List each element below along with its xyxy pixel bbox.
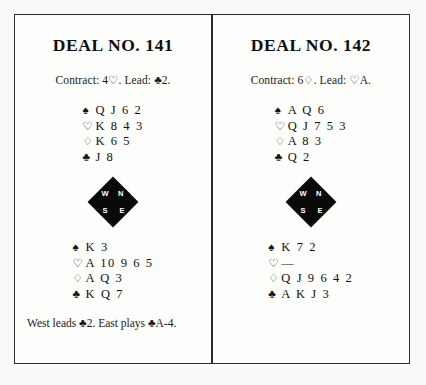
heart-icon: ♡ (275, 119, 288, 135)
south-spades-row-141: ♠ K 3 (73, 240, 154, 256)
north-clubs-141: J 8 (95, 150, 114, 166)
heart-icon: ♡ (82, 119, 95, 135)
diamond-icon: ♢ (275, 134, 288, 150)
south-clubs-row-141: ♣ K Q 7 (73, 287, 154, 303)
club-icon: ♣ (268, 287, 281, 303)
north-clubs-row-142: ♣ Q 2 (275, 150, 348, 166)
north-clubs-142: Q 2 (288, 150, 311, 166)
south-spades-142: K 7 2 (281, 240, 317, 256)
north-spades-142: A Q 6 (288, 103, 326, 119)
compass-west-label: W (299, 190, 306, 198)
north-diamonds-141: K 6 5 (95, 134, 131, 150)
north-hand-142: ♠ A Q 6 ♡ Q J 7 5 3 ♢ A 8 3 ♣ Q 2 (275, 103, 348, 165)
north-diamonds-row-142: ♢ A 8 3 (275, 134, 348, 150)
deal-panel-141: DEAL NO. 141 Contract: 4♡. Lead: ♣2. ♠ Q… (15, 15, 211, 363)
contract-line-142: Contract: 6♢. Lead: ♡A. (251, 73, 371, 87)
club-icon: ♣ (82, 150, 95, 166)
contract-line-141: Contract: 4♡. Lead: ♣2. (56, 73, 171, 87)
south-diamonds-row-142: ♢ Q J 9 6 4 2 (268, 271, 353, 287)
north-hand-141: ♠ Q J 6 2 ♡ K 8 4 3 ♢ K 6 5 ♣ J 8 (82, 103, 143, 165)
north-clubs-row-141: ♣ J 8 (82, 150, 143, 166)
south-clubs-141: K Q 7 (86, 287, 125, 303)
compass-diamond: N W E S (285, 177, 336, 228)
deal-title-141: DEAL NO. 141 (53, 35, 173, 56)
compass-rose-142: N W E S (293, 176, 329, 228)
spade-icon: ♠ (275, 103, 288, 119)
north-hearts-141: K 8 4 3 (95, 119, 143, 135)
diamond-icon: ♢ (82, 134, 95, 150)
compass-north-label: N (118, 190, 123, 198)
deal-title-142: DEAL NO. 142 (251, 35, 371, 56)
compass-north-label: N (316, 190, 321, 198)
south-hand-142: ♠ K 7 2 ♡ — ♢ Q J 9 6 4 2 ♣ A K J 3 (268, 240, 353, 302)
diamond-icon: ♢ (268, 271, 281, 287)
compass-east-label: E (317, 207, 322, 214)
compass-south-label: S (103, 206, 108, 214)
north-diamonds-142: A 8 3 (288, 134, 323, 150)
deals-frame: DEAL NO. 141 Contract: 4♡. Lead: ♣2. ♠ Q… (14, 14, 410, 364)
north-hearts-142: Q J 7 5 3 (288, 119, 348, 135)
south-diamonds-142: Q J 9 6 4 2 (281, 271, 353, 287)
compass-south-label: S (300, 206, 305, 214)
south-hearts-row-141: ♡ A 10 9 6 5 (73, 256, 154, 272)
north-hearts-row-141: ♡ K 8 4 3 (82, 119, 143, 135)
south-clubs-142: A K J 3 (281, 287, 330, 303)
south-hand-141: ♠ K 3 ♡ A 10 9 6 5 ♢ A Q 3 ♣ K Q 7 (73, 240, 154, 302)
heart-icon: ♡ (73, 256, 86, 272)
spade-icon: ♠ (73, 240, 86, 256)
north-spades-141: Q J 6 2 (95, 103, 142, 119)
south-hearts-142: — (281, 256, 295, 272)
deal-panel-142: DEAL NO. 142 Contract: 6♢. Lead: ♡A. ♠ A… (213, 15, 409, 363)
compass-diamond: N W E S (88, 177, 139, 228)
south-diamonds-141: A Q 3 (86, 271, 124, 287)
north-diamonds-row-141: ♢ K 6 5 (82, 134, 143, 150)
heart-icon: ♡ (268, 256, 281, 272)
club-icon: ♣ (275, 150, 288, 166)
north-hearts-row-142: ♡ Q J 7 5 3 (275, 119, 348, 135)
south-hearts-141: A 10 9 6 5 (86, 256, 154, 272)
spade-icon: ♠ (268, 240, 281, 256)
south-spades-row-142: ♠ K 7 2 (268, 240, 353, 256)
south-diamonds-row-141: ♢ A Q 3 (73, 271, 154, 287)
south-hearts-row-142: ♡ — (268, 256, 353, 272)
compass-west-label: W (102, 190, 109, 198)
diamond-icon: ♢ (73, 271, 86, 287)
club-icon: ♣ (73, 287, 86, 303)
spade-icon: ♠ (82, 103, 95, 119)
deal-diagram-page: DEAL NO. 141 Contract: 4♡. Lead: ♣2. ♠ Q… (0, 0, 426, 385)
compass-rose-141: N W E S (95, 176, 131, 228)
north-spades-row-141: ♠ Q J 6 2 (82, 103, 143, 119)
north-spades-row-142: ♠ A Q 6 (275, 103, 348, 119)
compass-east-label: E (120, 207, 125, 214)
south-spades-141: K 3 (86, 240, 109, 256)
south-clubs-row-142: ♣ A K J 3 (268, 287, 353, 303)
deal-footer-note-141: West leads ♣2. East plays ♣A-4. (27, 316, 199, 331)
